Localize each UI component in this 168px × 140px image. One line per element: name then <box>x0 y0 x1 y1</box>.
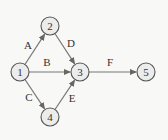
node-label: 2 <box>47 20 53 32</box>
node-4: 4 <box>41 108 59 126</box>
node-2: 2 <box>41 17 59 35</box>
node-label: 5 <box>143 66 149 78</box>
node-3: 3 <box>71 63 89 81</box>
node-1: 1 <box>11 63 29 81</box>
node-label: 3 <box>77 66 83 78</box>
edge-b: B <box>29 56 70 72</box>
edge-label: B <box>43 56 50 68</box>
network-diagram: ABCDEF 12345 <box>0 0 168 140</box>
edge-a: A <box>24 34 45 64</box>
edge-label: E <box>69 92 76 104</box>
edge-label: D <box>67 37 75 49</box>
edge-c: C <box>25 79 44 108</box>
edge-d: D <box>55 34 75 64</box>
edge-f: F <box>89 56 136 72</box>
node-label: 1 <box>17 66 23 78</box>
node-label: 4 <box>47 111 53 123</box>
edge-label: A <box>24 39 32 51</box>
node-5: 5 <box>137 63 155 81</box>
edge-label: F <box>107 56 113 68</box>
edge-label: C <box>25 91 32 103</box>
edge-e: E <box>55 80 76 109</box>
